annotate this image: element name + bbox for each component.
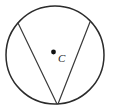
geometry-figure: C xyxy=(0,0,116,111)
center-label-c: C xyxy=(58,52,66,64)
circle-outline xyxy=(6,6,104,104)
geometry-canvas: C xyxy=(0,0,116,111)
center-point-dot xyxy=(51,50,56,55)
